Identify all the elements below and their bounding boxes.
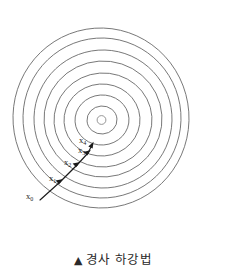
point-label-x3: x3	[78, 145, 85, 156]
contour-ellipse-8	[7, 22, 195, 214]
contour-ellipse-7	[18, 33, 187, 204]
contour-ellipse-6	[29, 45, 176, 192]
point-label-x2-sub: 2	[68, 162, 71, 168]
contour-plot: x0 x1 x2 x3 x4	[0, 0, 226, 274]
point-label-x2: x2	[64, 157, 71, 168]
contour-ellipse-group	[7, 22, 195, 214]
contour-ellipse-5	[40, 57, 166, 181]
descent-segment-0-1	[40, 182, 60, 200]
contour-ellipse-1	[86, 105, 118, 135]
descent-path-group	[40, 142, 94, 200]
caption-label: 경사 하강법	[86, 252, 152, 267]
gradient-descent-figure: x0 x1 x2 x3 x4 ▲경사 하강법	[0, 0, 226, 274]
caption-triangle-icon: ▲	[74, 254, 83, 267]
point-label-x1-sub: 1	[53, 178, 56, 184]
point-label-x3-sub: 3	[82, 150, 85, 156]
point-label-x0-sub: 0	[30, 196, 33, 202]
figure-caption: ▲경사 하강법	[0, 249, 226, 268]
point-label-x1: x1	[49, 173, 56, 184]
contour-ellipse-3	[62, 81, 143, 158]
point-label-group: x0 x1 x2 x3 x4	[26, 135, 86, 202]
point-label-x4-sub: 4	[83, 140, 86, 146]
contour-ellipse-4	[51, 70, 155, 171]
point-label-x4: x4	[79, 135, 86, 146]
point-label-x0: x0	[26, 191, 33, 202]
contour-center-circle	[97, 116, 106, 125]
